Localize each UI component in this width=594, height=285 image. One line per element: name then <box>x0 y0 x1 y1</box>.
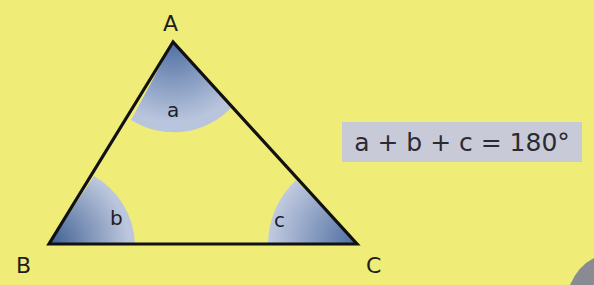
vertex-label-c: C <box>366 255 381 277</box>
angle-label-c: c <box>274 210 285 230</box>
angle-label-b: b <box>110 208 123 228</box>
angle-sum-formula: a + b + c = 180° <box>342 122 582 162</box>
angle-label-a: a <box>167 100 179 120</box>
vertex-label-a: A <box>163 13 178 35</box>
page-curl <box>570 258 594 285</box>
vertex-label-b: B <box>16 255 31 277</box>
triangle-diagram: A B C a b c a + b + c = 180° <box>0 0 594 285</box>
